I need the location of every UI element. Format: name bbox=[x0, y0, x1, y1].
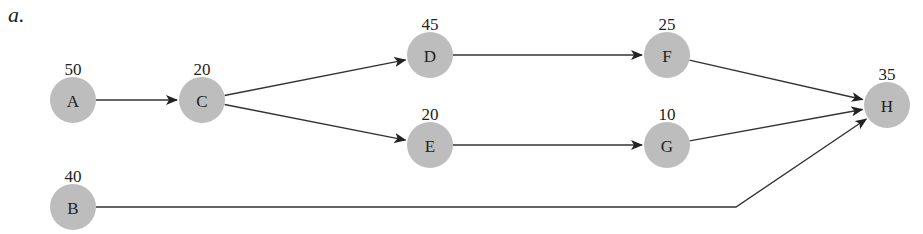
node-label: G bbox=[661, 137, 673, 156]
node-e: E20 bbox=[407, 105, 453, 168]
node-label: D bbox=[424, 47, 436, 66]
edge-g-to-h bbox=[690, 109, 863, 140]
node-f: F25 bbox=[644, 15, 690, 78]
node-duration: 10 bbox=[659, 105, 676, 124]
node-label: A bbox=[67, 92, 80, 111]
node-duration: 25 bbox=[659, 15, 676, 34]
node-duration: 50 bbox=[65, 60, 82, 79]
node-duration: 40 bbox=[65, 167, 82, 186]
network-diagram: A50B40C20D45E20F25G10H35 bbox=[0, 0, 923, 234]
node-h: H35 bbox=[864, 65, 910, 128]
node-duration: 45 bbox=[422, 15, 439, 34]
edge-c-to-e bbox=[225, 104, 406, 140]
edge-b-to-h bbox=[96, 119, 866, 207]
node-label: E bbox=[425, 137, 435, 156]
node-g: G10 bbox=[644, 105, 690, 168]
node-a: A50 bbox=[50, 60, 96, 123]
node-duration: 20 bbox=[194, 60, 211, 79]
node-duration: 35 bbox=[879, 65, 896, 84]
node-c: C20 bbox=[179, 60, 225, 123]
edge-c-to-d bbox=[225, 60, 406, 96]
node-label: H bbox=[881, 97, 893, 116]
edge-f-to-h bbox=[689, 60, 862, 99]
node-duration: 20 bbox=[422, 105, 439, 124]
node-d: D45 bbox=[407, 15, 453, 78]
nodes-layer: A50B40C20D45E20F25G10H35 bbox=[50, 15, 910, 230]
node-label: C bbox=[196, 92, 207, 111]
node-label: B bbox=[67, 199, 78, 218]
node-label: F bbox=[662, 47, 671, 66]
edges-layer bbox=[96, 55, 866, 207]
node-b: B40 bbox=[50, 167, 96, 230]
